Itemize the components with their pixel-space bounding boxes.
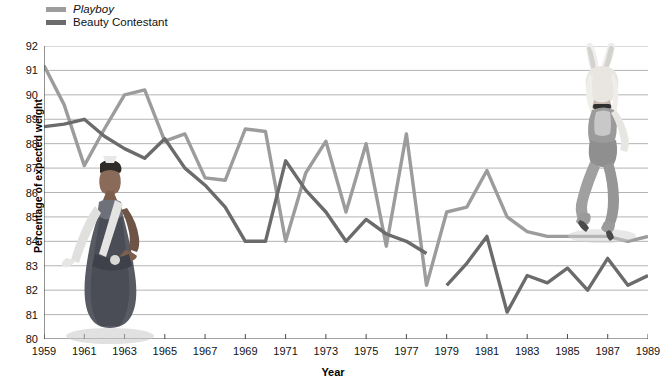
- y-tick-label: 91: [8, 64, 38, 76]
- y-tick-label: 84: [8, 235, 38, 247]
- y-tick-label: 81: [8, 309, 38, 321]
- y-tick-label: 80: [8, 333, 38, 345]
- chart-legend: Playboy Beauty Contestant: [46, 3, 168, 29]
- plot-area: [44, 46, 648, 339]
- x-tick-label: 1981: [475, 345, 499, 357]
- legend-item-beauty-contestant: Beauty Contestant: [46, 16, 168, 28]
- weight-trend-chart: Playboy Beauty Contestant Percentage of …: [0, 0, 666, 386]
- x-tick-label: 1979: [434, 345, 458, 357]
- legend-swatch-beauty-contestant: [46, 20, 66, 25]
- x-tick-label: 1987: [595, 345, 619, 357]
- legend-label-playboy: Playboy: [73, 3, 114, 15]
- y-tick-label: 92: [8, 40, 38, 52]
- x-tick-label: 1983: [515, 345, 539, 357]
- x-tick-label: 1969: [233, 345, 257, 357]
- x-tick-label: 1973: [314, 345, 338, 357]
- x-tick-label: 1971: [273, 345, 297, 357]
- x-tick-label: 1963: [112, 345, 136, 357]
- y-tick-label: 85: [8, 211, 38, 223]
- x-tick-label: 1989: [636, 345, 660, 357]
- y-tick-label: 88: [8, 138, 38, 150]
- x-tick-label: 1985: [555, 345, 579, 357]
- beauty-contestant-photo: [55, 150, 165, 345]
- x-tick-label: 1967: [193, 345, 217, 357]
- x-tick-label: 1959: [32, 345, 56, 357]
- x-axis-ticks: 1959196119631965196719691971197319751977…: [44, 341, 648, 361]
- y-tick-label: 89: [8, 113, 38, 125]
- x-axis-title: Year: [0, 366, 666, 378]
- y-tick-label: 90: [8, 89, 38, 101]
- y-tick-label: 83: [8, 260, 38, 272]
- legend-swatch-playboy: [46, 7, 66, 12]
- x-tick-label: 1977: [394, 345, 418, 357]
- legend-label-beauty-contestant: Beauty Contestant: [73, 16, 168, 28]
- y-tick-label: 86: [8, 187, 38, 199]
- y-tick-label: 87: [8, 162, 38, 174]
- playboy-bunny-photo: [556, 40, 648, 248]
- x-tick-label: 1965: [153, 345, 177, 357]
- y-axis-ticks: 80818283848586878889909192: [0, 46, 38, 339]
- x-tick-label: 1961: [72, 345, 96, 357]
- legend-item-playboy: Playboy: [46, 3, 168, 15]
- y-tick-label: 82: [8, 284, 38, 296]
- x-tick-label: 1975: [354, 345, 378, 357]
